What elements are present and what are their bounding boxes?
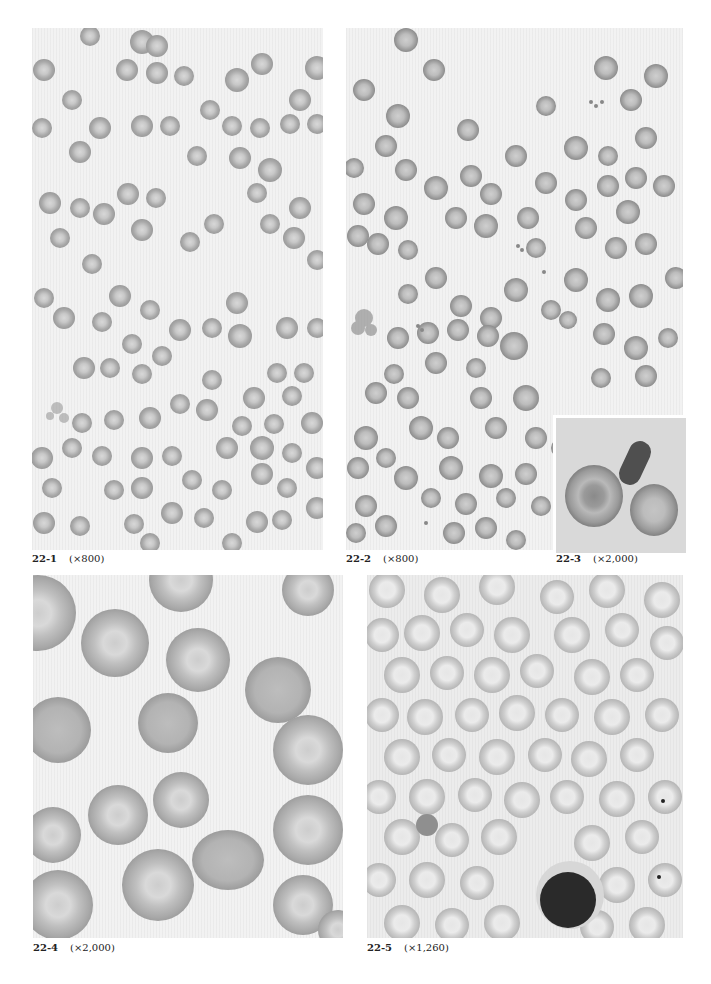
figure-number: 22-5 [367, 942, 392, 953]
magnification: (×1,260) [404, 942, 449, 953]
magnification: (×2,000) [593, 553, 638, 564]
magnification: (×800) [383, 553, 418, 564]
caption-22-1: 22-1(×800) [32, 553, 104, 564]
caption-22-3: 22-3(×2,000) [556, 553, 638, 564]
micrograph-22-1 [32, 28, 323, 550]
figure-number: 22-1 [32, 553, 57, 564]
erythrocyte-field-icon [32, 28, 323, 550]
erythrocyte-field-icon [33, 575, 343, 938]
micrograph-22-4 [33, 575, 343, 938]
figure-number: 22-4 [33, 942, 58, 953]
caption-22-4: 22-4(×2,000) [33, 942, 115, 953]
caption-22-5: 22-5(×1,260) [367, 942, 449, 953]
figure-number: 22-3 [556, 553, 581, 564]
erythrocyte-closeup-icon [556, 418, 686, 553]
micrograph-22-3-inset [553, 415, 689, 556]
figure-number: 22-2 [346, 553, 371, 564]
erythrocyte-field-icon [367, 575, 683, 938]
micrograph-22-5 [367, 575, 683, 938]
magnification: (×2,000) [70, 942, 115, 953]
magnification: (×800) [69, 553, 104, 564]
caption-22-2: 22-2(×800) [346, 553, 418, 564]
